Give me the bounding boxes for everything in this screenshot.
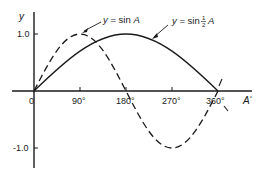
dash-mark-top — [219, 79, 222, 86]
series-sinHalfA-solid — [34, 34, 218, 91]
x-tick-label-90: 90° — [72, 96, 86, 106]
arrowhead-sinHalfA-icon — [152, 33, 158, 39]
x-axis-label: A° — [242, 95, 253, 106]
fraction-denominator: 2 — [202, 22, 206, 28]
x-tick-label-180: 180° — [116, 96, 135, 106]
annotation-sinHalfA: y = sin — [171, 15, 200, 26]
x-tick-label-270: 270° — [162, 96, 181, 106]
annotation-sinHalfA-var: A — [207, 15, 214, 26]
x-tick-label-360: 360° — [206, 96, 225, 106]
sine-comparison-chart: y A° 0 90° 180° 270° 360° 1.0 -1.0 y = s… — [0, 0, 268, 182]
y-tick-label-1: 1.0 — [17, 29, 30, 39]
annotation-sinA: y = sin A — [102, 14, 140, 25]
dash-mark-bottom — [224, 106, 228, 111]
y-axis-label: y — [18, 11, 25, 22]
y-tick-label-neg1: -1.0 — [13, 143, 29, 153]
arrowhead-sinA-icon — [82, 28, 88, 33]
fraction-numerator: 1 — [202, 15, 206, 21]
x-tick-label-0: 0 — [29, 96, 34, 106]
